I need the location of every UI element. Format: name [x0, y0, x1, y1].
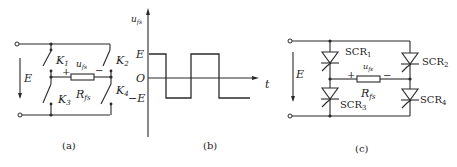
- voltage-label-ufs: ufs: [76, 59, 87, 71]
- panel-b-waveform: [146, 8, 259, 137]
- source-arrow-head: [18, 93, 22, 99]
- terminal-top: [15, 42, 19, 46]
- caption-b: (b): [203, 140, 217, 151]
- thyristor-label-scr1: SCR1: [345, 46, 372, 59]
- thyristor-label-scr3: SCR3: [340, 99, 367, 112]
- terminal-top: [288, 39, 292, 43]
- caption-c: (c): [355, 143, 369, 154]
- caption-a: (a): [62, 140, 76, 151]
- load-resistor: [71, 74, 94, 80]
- x-axis-label: t: [265, 78, 270, 91]
- x-axis-arrow: [252, 76, 259, 80]
- switch-k1-blade: [43, 51, 51, 66]
- thyristor-label-scr2: SCR2: [422, 56, 449, 69]
- load-resistor: [357, 76, 380, 82]
- tick-label-e: E: [135, 48, 144, 61]
- source-label-e: E: [23, 72, 32, 85]
- load-label-rfs: Rfs: [75, 88, 91, 102]
- source-arrow-head: [291, 96, 295, 102]
- switch-label-k3: K3: [57, 93, 71, 107]
- terminal-bottom: [18, 113, 22, 117]
- switch-k3-blade: [43, 84, 51, 103]
- y-axis-label: ufs: [131, 14, 142, 26]
- figure-canvas: E K1 K2 K3 K4 ufs Rfs + − (a) ufs E O −E…: [0, 0, 457, 167]
- switch-k2-blade: [103, 50, 110, 66]
- square-wave-trace: [149, 54, 250, 98]
- y-axis-arrow: [146, 8, 150, 15]
- voltage-label-ufs: ufs: [363, 62, 373, 73]
- switch-label-k4: K4: [115, 84, 129, 98]
- switch-k4-blade: [101, 84, 111, 104]
- thyristor-label-scr4: SCR4: [420, 94, 447, 107]
- terminal-bottom: [288, 114, 292, 118]
- plus-sign: +: [347, 69, 355, 80]
- source-label-e: E: [295, 68, 304, 81]
- load-label-rfs: Rfs: [360, 87, 376, 101]
- tick-label-origin: O: [136, 72, 145, 85]
- plus-sign: +: [62, 66, 70, 77]
- minus-sign: −: [95, 65, 103, 76]
- tick-label-neg-e: −E: [128, 92, 145, 105]
- minus-sign: −: [383, 70, 391, 81]
- switch-label-k2: K2: [115, 54, 129, 68]
